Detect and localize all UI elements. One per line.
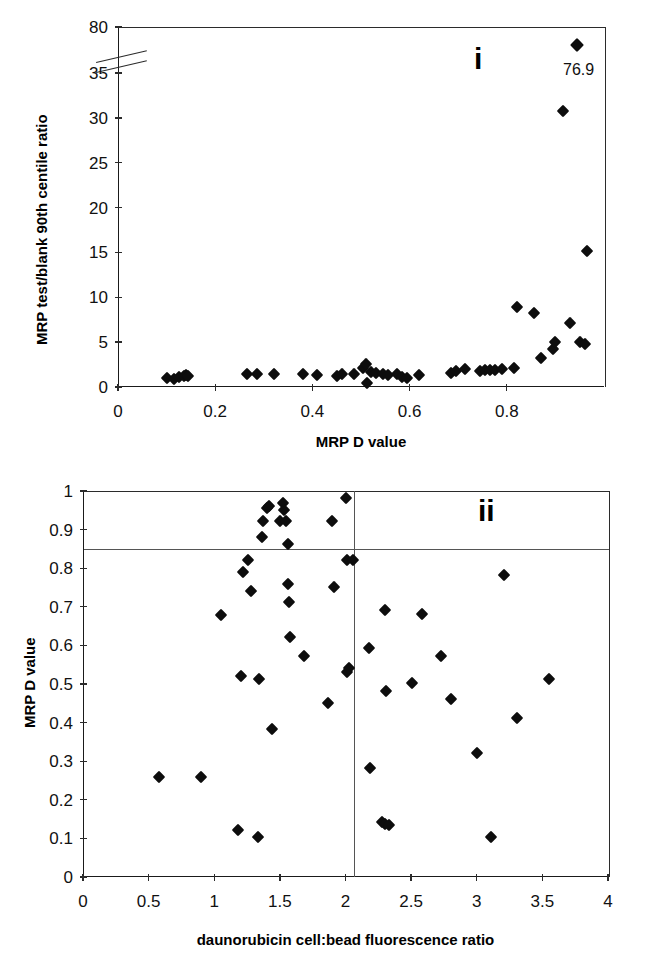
y-tick-label: 0 — [50, 379, 108, 396]
x-tick-mark — [215, 384, 216, 391]
y-tick-label: 5 — [50, 334, 108, 351]
panel-i-chart: MRP test/blank 90th centile ratio MRP D … — [0, 0, 659, 470]
x-tick-label: 0.2 — [185, 403, 245, 420]
y-tick-label: 0.3 — [17, 753, 73, 770]
y-tick-mark — [115, 252, 122, 253]
plot-frame-right-ii — [609, 491, 610, 877]
x-tick-label: 2.5 — [381, 893, 441, 910]
x-tick-label: 1.5 — [250, 893, 310, 910]
x-tick-label: 0.4 — [282, 403, 342, 420]
y-tick-label: 0.5 — [17, 676, 73, 693]
y-tick-label: 0 — [17, 869, 73, 886]
y-tick-label: 10 — [50, 289, 108, 306]
x-tick-mark — [345, 874, 346, 881]
y-tick-label: 0.4 — [17, 715, 73, 732]
y-tick-label: 1 — [17, 483, 73, 500]
y-tick-mark — [115, 207, 122, 208]
y-tick-mark — [115, 341, 122, 342]
y-tick-label: 0.8 — [17, 560, 73, 577]
annotation-76-9: 76.9 — [563, 62, 594, 78]
x-tick-mark — [476, 874, 477, 881]
axis-title-x-ii: daunorubicin cell:bead fluorescence rati… — [83, 932, 608, 947]
x-tick-mark — [117, 384, 118, 391]
x-tick-mark — [409, 384, 410, 391]
x-tick-label: 3 — [447, 893, 507, 910]
reference-line-vertical — [354, 491, 355, 877]
x-tick-mark — [82, 874, 83, 881]
y-tick-label: 80 — [50, 19, 108, 36]
figure-scatter-panels: MRP test/blank 90th centile ratio MRP D … — [0, 0, 659, 959]
y-tick-mark — [115, 117, 122, 118]
x-tick-mark — [542, 874, 543, 881]
y-tick-label: 35 — [50, 65, 108, 82]
y-tick-mark — [80, 529, 87, 530]
x-tick-mark — [312, 384, 313, 391]
axis-title-y-i: MRP test/blank 90th centile ratio — [34, 114, 49, 345]
y-tick-label: 0.2 — [17, 792, 73, 809]
x-tick-label: 0.8 — [477, 403, 537, 420]
y-tick-label: 25 — [50, 155, 108, 172]
y-tick-mark — [115, 26, 122, 27]
x-tick-mark — [279, 874, 280, 881]
y-tick-label: 0.6 — [17, 637, 73, 654]
panel-ii-chart: MRP D value daunorubicin cell:bead fluor… — [0, 470, 659, 959]
y-tick-mark — [115, 297, 122, 298]
y-tick-label: 0.9 — [17, 522, 73, 539]
y-tick-mark — [80, 568, 87, 569]
panel-label-ii: ii — [478, 496, 495, 526]
x-tick-label: 0 — [53, 893, 113, 910]
plot-area-i — [118, 27, 604, 387]
x-tick-label: 2 — [316, 893, 376, 910]
x-tick-mark — [214, 874, 215, 881]
y-tick-mark — [80, 761, 87, 762]
x-tick-label: 0.5 — [119, 893, 179, 910]
plot-area-ii — [83, 491, 608, 877]
y-tick-label: 0.1 — [17, 830, 73, 847]
x-tick-label: 4 — [578, 893, 638, 910]
axis-title-x-i: MRP D value — [118, 434, 604, 449]
y-tick-mark — [80, 722, 87, 723]
y-tick-mark — [80, 683, 87, 684]
y-tick-mark — [115, 72, 122, 73]
x-tick-mark — [607, 874, 608, 881]
plot-frame-right-i — [605, 27, 606, 387]
x-tick-label: 0.6 — [380, 403, 440, 420]
y-tick-mark — [80, 490, 87, 491]
y-tick-mark — [115, 162, 122, 163]
y-tick-label: 20 — [50, 200, 108, 217]
x-tick-mark — [506, 384, 507, 391]
y-tick-mark — [80, 606, 87, 607]
y-tick-mark — [80, 645, 87, 646]
x-tick-label: 0 — [88, 403, 148, 420]
y-tick-label: 30 — [50, 110, 108, 127]
x-tick-mark — [148, 874, 149, 881]
panel-label-i: i — [474, 44, 482, 74]
y-tick-label: 15 — [50, 244, 108, 261]
y-tick-mark — [80, 838, 87, 839]
y-tick-mark — [80, 799, 87, 800]
plot-frame-top-i — [119, 27, 605, 28]
x-tick-label: 3.5 — [512, 893, 572, 910]
x-tick-label: 1 — [184, 893, 244, 910]
y-tick-label: 0.7 — [17, 599, 73, 616]
reference-line-horizontal — [84, 549, 609, 550]
x-tick-mark — [410, 874, 411, 881]
